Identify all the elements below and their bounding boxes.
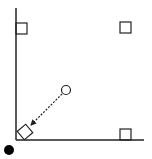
diagram-canvas xyxy=(0,0,152,159)
square-bottom-right xyxy=(120,129,131,140)
dashed-arrow xyxy=(31,94,62,125)
filled-dot xyxy=(4,145,14,155)
open-circle xyxy=(62,86,71,95)
rotated-square xyxy=(17,124,32,139)
square-top-right xyxy=(120,22,131,33)
square-top-left xyxy=(16,23,27,34)
